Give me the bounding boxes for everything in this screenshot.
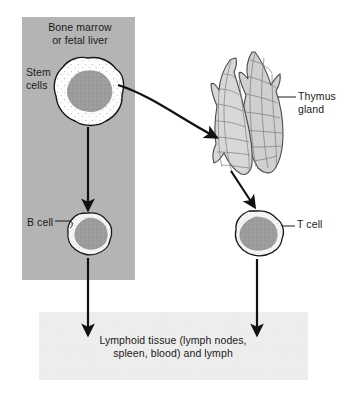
b-cell-label: B cell	[27, 216, 53, 229]
source-panel-label: Bone marrow or fetal liver	[36, 21, 124, 46]
b-cell	[68, 213, 112, 255]
diagram-canvas: Bone marrow or fetal liver Stem cells B …	[0, 0, 347, 402]
t-cell-label: T cell	[297, 218, 323, 231]
thymus-gland-label: Thymus gland	[298, 90, 346, 115]
t-cell	[235, 211, 283, 256]
stem-cell-label: Stem cells	[26, 66, 60, 91]
stem-cell	[54, 57, 123, 125]
destination-panel-label: Lymphoid tissue (lymph nodes, spleen, bl…	[63, 334, 283, 359]
thymus-gland	[211, 52, 283, 174]
thymus-to-tcell-arrow	[231, 171, 252, 203]
